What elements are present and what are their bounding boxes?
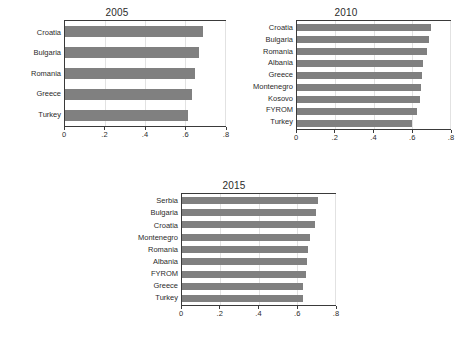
- x-axis-tick-label: 0: [294, 134, 298, 142]
- bar-row: [297, 83, 450, 92]
- bar-row: [297, 23, 450, 32]
- bar: [182, 209, 316, 216]
- bar-series: [65, 21, 225, 126]
- x-axis-tick-label: .4: [370, 134, 376, 142]
- bar-row: [65, 25, 225, 38]
- bar: [297, 96, 420, 103]
- x-axis-tick-label: .4: [255, 310, 261, 318]
- bar-series: [182, 194, 335, 305]
- x-axis-tick-label: .2: [217, 310, 223, 318]
- y-axis-tick-label: Montenegro: [138, 234, 178, 242]
- bar: [182, 221, 315, 228]
- chart-body-2015: SerbiaBulgariaCroatiaMontenegroRomaniaAl…: [118, 193, 350, 306]
- bar-row: [182, 208, 335, 217]
- bar-row: [182, 294, 335, 303]
- bar-row: [297, 107, 450, 116]
- chart-panel-2005: 2005 CroatiaBulgariaRomaniaGreeceTurkey …: [4, 6, 230, 143]
- bar-row: [182, 233, 335, 242]
- y-axis-tick-label: Turkey: [38, 111, 61, 119]
- bar: [182, 258, 307, 265]
- bar-series: [297, 21, 450, 129]
- y-axis-tick-label: Bulgaria: [265, 36, 293, 44]
- x-axis-tick-label: 0: [62, 131, 66, 139]
- bar: [297, 108, 417, 115]
- bar: [182, 271, 306, 278]
- bar: [182, 234, 310, 241]
- y-axis-tick-label: Romania: [148, 246, 178, 254]
- plot-area-2015: [181, 193, 336, 306]
- bar: [65, 89, 192, 100]
- x-axis-tick-label: .6: [182, 131, 188, 139]
- plot-area-2010: [296, 20, 451, 130]
- bar: [182, 197, 318, 204]
- chart-panel-2015: 2015 SerbiaBulgariaCroatiaMontenegroRoma…: [118, 179, 350, 322]
- x-axis-tick-label: .4: [142, 131, 148, 139]
- x-axis-2015: 0.2.4.6.8: [181, 306, 336, 322]
- bar-row: [182, 220, 335, 229]
- y-axis-tick-label: Greece: [36, 90, 61, 98]
- y-axis-tick-label: Serbia: [156, 197, 178, 205]
- y-axis-tick-label: Greece: [153, 282, 178, 290]
- y-axis-tick-label: Bulgaria: [150, 209, 178, 217]
- bar-row: [65, 109, 225, 122]
- bar: [297, 48, 427, 55]
- gridline: [450, 21, 451, 129]
- x-axis-tick-label: .2: [101, 131, 107, 139]
- bar-row: [182, 282, 335, 291]
- panel-title-2010: 2010: [233, 6, 459, 20]
- y-axis-tick-label: Bulgaria: [33, 49, 61, 57]
- y-axis-tick-label: Romania: [31, 70, 61, 78]
- bar-row: [297, 119, 450, 128]
- x-axis-tick-label: .8: [333, 310, 339, 318]
- bar-row: [297, 95, 450, 104]
- bar-row: [182, 196, 335, 205]
- x-axis-tick-label: .6: [294, 310, 300, 318]
- bar: [297, 72, 422, 79]
- bar: [297, 36, 429, 43]
- bar: [297, 24, 431, 31]
- panel-title-2005: 2005: [4, 6, 230, 20]
- y-axis-tick-label: FYROM: [266, 106, 293, 114]
- bar-row: [297, 35, 450, 44]
- bar-row: [297, 71, 450, 80]
- bar-row: [182, 245, 335, 254]
- bar-row: [182, 270, 335, 279]
- bar-row: [182, 257, 335, 266]
- x-axis-tick-label: .6: [409, 134, 415, 142]
- chart-body-2010: CroatiaBulgariaRomaniaAlbaniaGreeceMonte…: [233, 20, 459, 130]
- y-axis-tick-label: Croatia: [269, 24, 293, 32]
- y-axis-tick-label: Greece: [268, 71, 293, 79]
- x-axis-tick-label: .8: [448, 134, 454, 142]
- x-axis-tick-label: .2: [332, 134, 338, 142]
- y-axis-labels-2005: CroatiaBulgariaRomaniaGreeceTurkey: [4, 20, 64, 127]
- x-axis-2010: 0.2.4.6.8: [296, 130, 451, 146]
- y-axis-tick-label: Albania: [153, 258, 178, 266]
- bar: [182, 246, 308, 253]
- bar-row: [65, 46, 225, 59]
- bar-row: [65, 88, 225, 101]
- gridline: [335, 194, 336, 305]
- x-axis-tick-label: 0: [179, 310, 183, 318]
- y-axis-labels-2015: SerbiaBulgariaCroatiaMontenegroRomaniaAl…: [118, 193, 181, 306]
- plot-area-2005: [64, 20, 226, 127]
- gridline: [225, 21, 226, 126]
- y-axis-tick-label: Kosovo: [268, 95, 293, 103]
- bar-row: [297, 59, 450, 68]
- y-axis-tick-label: Montenegro: [253, 83, 293, 91]
- panel-title-2015: 2015: [118, 179, 350, 193]
- y-axis-tick-label: Turkey: [270, 118, 293, 126]
- bar: [65, 26, 203, 37]
- bar-row: [65, 67, 225, 80]
- y-axis-tick-label: Albania: [268, 59, 293, 67]
- bar: [297, 120, 412, 127]
- y-axis-tick-label: Turkey: [155, 294, 178, 302]
- bar: [182, 283, 303, 290]
- x-axis-2005: 0.2.4.6.8: [64, 127, 226, 143]
- bar: [297, 84, 421, 91]
- y-axis-labels-2010: CroatiaBulgariaRomaniaAlbaniaGreeceMonte…: [233, 20, 296, 130]
- y-axis-tick-label: Romania: [263, 48, 293, 56]
- bar: [65, 110, 188, 121]
- y-axis-tick-label: Croatia: [154, 222, 178, 230]
- y-axis-tick-label: FYROM: [151, 270, 178, 278]
- y-axis-tick-label: Croatia: [37, 29, 61, 37]
